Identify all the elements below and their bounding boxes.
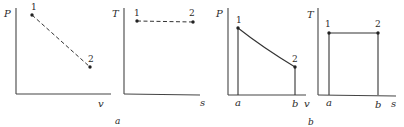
y-axis-label: T bbox=[112, 8, 120, 19]
x-tick-a: a bbox=[326, 97, 332, 108]
process-path bbox=[238, 28, 295, 67]
point-2-label: 2 bbox=[189, 8, 195, 18]
state-point-1 bbox=[327, 31, 330, 34]
point-2-label: 2 bbox=[375, 19, 381, 29]
process-path bbox=[137, 21, 193, 22]
point-1-label: 1 bbox=[236, 15, 242, 25]
x-axis-label: s bbox=[391, 98, 396, 109]
process-path bbox=[32, 15, 90, 67]
caption-b: b bbox=[308, 117, 314, 127]
state-point-1 bbox=[236, 26, 239, 29]
x-axis-label: s bbox=[200, 97, 205, 108]
y-axis-label: P bbox=[3, 8, 11, 19]
panel-a-pv: P v 1 2 bbox=[3, 2, 111, 109]
state-point-2 bbox=[293, 65, 296, 68]
x-axis bbox=[124, 94, 200, 95]
y-axis-label: T bbox=[307, 9, 315, 20]
point-1-label: 1 bbox=[134, 8, 140, 18]
state-point-2 bbox=[88, 65, 91, 68]
x-tick-b: b bbox=[292, 98, 298, 109]
panel-b-pv: P v 1 2 a b bbox=[215, 8, 310, 109]
x-tick-b: b bbox=[375, 99, 381, 110]
caption-a: a bbox=[115, 116, 120, 126]
state-point-1 bbox=[135, 19, 138, 22]
y-axis-label: P bbox=[215, 8, 223, 19]
x-axis-label: v bbox=[304, 98, 310, 109]
panel-b-ts: T s 1 2 a b bbox=[307, 8, 396, 110]
thermo-diagram: P v 1 2 T s 1 2 a P v 1 2 a b bbox=[0, 0, 404, 127]
x-tick-a: a bbox=[235, 97, 241, 108]
panel-a-ts: T s 1 2 bbox=[112, 8, 205, 108]
point-2-label: 2 bbox=[88, 54, 94, 64]
point-1-label: 1 bbox=[31, 2, 37, 12]
state-point-2 bbox=[376, 31, 379, 34]
state-point-1 bbox=[30, 13, 33, 16]
x-axis-label: v bbox=[98, 98, 104, 109]
state-point-2 bbox=[191, 20, 194, 23]
x-axis bbox=[318, 95, 396, 96]
point-1-label: 1 bbox=[325, 19, 331, 29]
point-2-label: 2 bbox=[292, 54, 298, 64]
